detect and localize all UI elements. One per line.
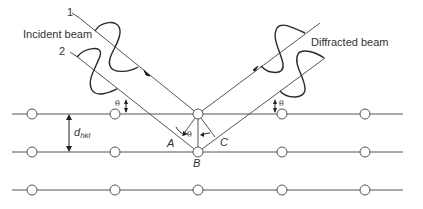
theta-marker-diffracted bbox=[273, 99, 277, 113]
lattice-planes bbox=[12, 114, 403, 190]
theta-label-diffracted: θ bbox=[279, 99, 284, 108]
diffracted-beam-label: Diffracted beam bbox=[311, 36, 388, 48]
atom bbox=[277, 147, 287, 157]
incident-direction-arrow-icon bbox=[144, 70, 150, 76]
diffracted-ray-2 bbox=[198, 58, 325, 152]
bragg-diffraction-diagram: 1 Incident beam 2 Diffracted beam θ θ θ … bbox=[0, 0, 423, 209]
theta-label-incident: θ bbox=[115, 99, 120, 108]
atom bbox=[360, 185, 370, 195]
atom bbox=[360, 109, 370, 119]
atom bbox=[193, 185, 203, 195]
atom bbox=[110, 185, 120, 195]
atom bbox=[110, 147, 120, 157]
incident-beam-label: Incident beam bbox=[23, 28, 92, 40]
point-c-label: C bbox=[220, 136, 228, 148]
ray-2-label: 2 bbox=[59, 45, 65, 57]
atom bbox=[27, 147, 37, 157]
atom-top-scatterer bbox=[193, 109, 203, 119]
ray-2-leader bbox=[70, 52, 76, 56]
d-spacing-label: dhkl bbox=[74, 126, 91, 140]
theta-marker-incident bbox=[124, 99, 128, 113]
theta-arrow-right-head-icon bbox=[200, 132, 204, 137]
atom bbox=[360, 147, 370, 157]
d-spacing-subscript: hkl bbox=[80, 131, 90, 140]
point-a-label: A bbox=[166, 137, 174, 149]
diffracted-wave-1 bbox=[261, 25, 305, 72]
diffracted-ray-1 bbox=[198, 23, 320, 114]
ray-1-label: 1 bbox=[67, 6, 73, 18]
diffracted-wave-2 bbox=[280, 51, 324, 97]
theta-label-center: θ bbox=[187, 130, 192, 139]
d-spacing-indicator bbox=[66, 114, 72, 152]
atom bbox=[277, 185, 287, 195]
atom-b bbox=[193, 147, 203, 157]
atom bbox=[277, 109, 287, 119]
atom bbox=[27, 109, 37, 119]
point-b-label: B bbox=[193, 157, 200, 169]
atom bbox=[110, 109, 120, 119]
incident-wave-1 bbox=[95, 23, 138, 72]
atom bbox=[27, 185, 37, 195]
